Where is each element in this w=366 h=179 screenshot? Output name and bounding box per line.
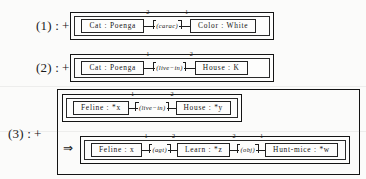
relation-label: (agt) [151, 147, 168, 154]
concept-box: House : K [195, 61, 248, 75]
relation-arc: 1 (agt) 2 [142, 143, 177, 157]
relation-arc: 2 (carac) 1 [144, 19, 190, 33]
concept-box: Cat : Poenga [81, 61, 144, 75]
concept-box: Feline : *x [73, 101, 129, 115]
relation-arc: 2 (obj) 1 [230, 143, 265, 157]
arc-valence-right: 2 [190, 51, 193, 57]
relation-label: (live−in) [138, 105, 167, 112]
concept-box: Cat : Poenga [81, 19, 144, 33]
implies-arrow: ⇒ [63, 142, 73, 154]
arc-valence-left: 1 [146, 51, 149, 57]
relation-label: (live−in) [155, 65, 184, 72]
scan-artifact [0, 86, 366, 87]
arc-valence-left: 1 [131, 91, 134, 97]
rule-label-3: (3) : [8, 126, 31, 142]
arc-valence-right: 1 [260, 133, 263, 139]
graph-frame-3b: Feline : x 1 (agt) 2 Learn : *z 2 (obj) … [80, 136, 350, 164]
rule-label-2: (2) : [36, 60, 59, 76]
graph-frame-2: Cat : Poenga 1 (live−in) 2 House : K [70, 54, 274, 82]
graph-inner-2: Cat : Poenga 1 (live−in) 2 House : K [74, 58, 270, 78]
graph-frame-3a: Feline : *x 1 (live−in) 2 House : *y [62, 94, 242, 122]
arc-valence-left: 2 [232, 133, 235, 139]
plus-sign-3: + [34, 126, 41, 142]
graph-frame-1: Cat : Poenga 2 (carac) 1 Color : White [70, 12, 274, 40]
rule-3-container: Feline : *x 1 (live−in) 2 House : *y ⇒ F… [57, 89, 360, 175]
concept-box: Hunt-mice : *w [265, 143, 338, 157]
concept-box: Learn : *z [177, 143, 230, 157]
arc-valence-left: 2 [146, 9, 149, 15]
rule-row-1: (1) : + Cat : Poenga 2 (carac) 1 Color :… [36, 12, 274, 40]
arc-valence-right: 1 [185, 9, 188, 15]
graph-inner-1: Cat : Poenga 2 (carac) 1 Color : White [74, 16, 270, 36]
figure-canvas: (1) : + Cat : Poenga 2 (carac) 1 Color :… [0, 0, 366, 179]
relation-label: (obj) [239, 147, 256, 154]
rule-row-2: (2) : + Cat : Poenga 1 (live−in) 2 House… [36, 54, 274, 82]
arc-valence-right: 2 [170, 91, 173, 97]
relation-label: (carac) [155, 23, 179, 30]
plus-sign-1: + [62, 18, 69, 34]
rule-label-group-3: (3) : + [8, 126, 41, 142]
arc-valence-left: 1 [144, 133, 147, 139]
relation-arc: 1 (live−in) 2 [144, 61, 195, 75]
relation-arc: 1 (live−in) 2 [129, 101, 176, 115]
rule-label-1: (1) : [36, 18, 59, 34]
graph-inner-3b: Feline : x 1 (agt) 2 Learn : *z 2 (obj) … [84, 140, 346, 160]
concept-box: House : *y [176, 101, 232, 115]
arc-valence-right: 2 [172, 133, 175, 139]
graph-inner-3a: Feline : *x 1 (live−in) 2 House : *y [66, 98, 238, 118]
plus-sign-2: + [62, 60, 69, 76]
concept-box: Color : White [190, 19, 256, 33]
concept-box: Feline : x [91, 143, 142, 157]
